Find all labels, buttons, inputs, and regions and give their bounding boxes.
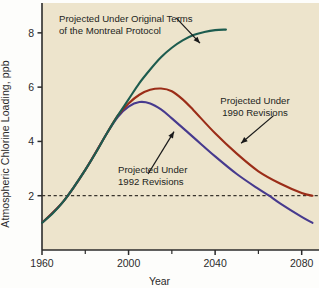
- x-tick-label: 1960: [30, 257, 54, 269]
- x-tick-label: 2080: [290, 257, 314, 269]
- annotation-original-terms-line-2: of the Montreal Protocol: [59, 25, 161, 36]
- annotation-original-terms-line-1: Projected Under Original Terms: [59, 13, 193, 24]
- annotation-1992-revisions-line-2: 1992 Revisions: [118, 176, 184, 187]
- chlorine-loading-chart: Atmospheric Chlorine Loading, ppb 246819…: [0, 0, 319, 288]
- annotation-1990-revisions-line-2: 1990 Revisions: [222, 107, 288, 118]
- x-tick-label: 2000: [117, 257, 141, 269]
- x-axis-label: Year: [0, 275, 319, 287]
- y-tick-label: 8: [28, 27, 34, 39]
- y-tick-label: 2: [28, 190, 34, 202]
- chart-canvas: 24681960200020402080 Projected Under Ori…: [0, 0, 319, 288]
- x-tick-label: 2040: [203, 257, 227, 269]
- annotation-1990-revisions-line-1: Projected Under: [220, 95, 290, 106]
- y-tick-label: 6: [28, 81, 34, 93]
- y-tick-label: 4: [28, 135, 34, 147]
